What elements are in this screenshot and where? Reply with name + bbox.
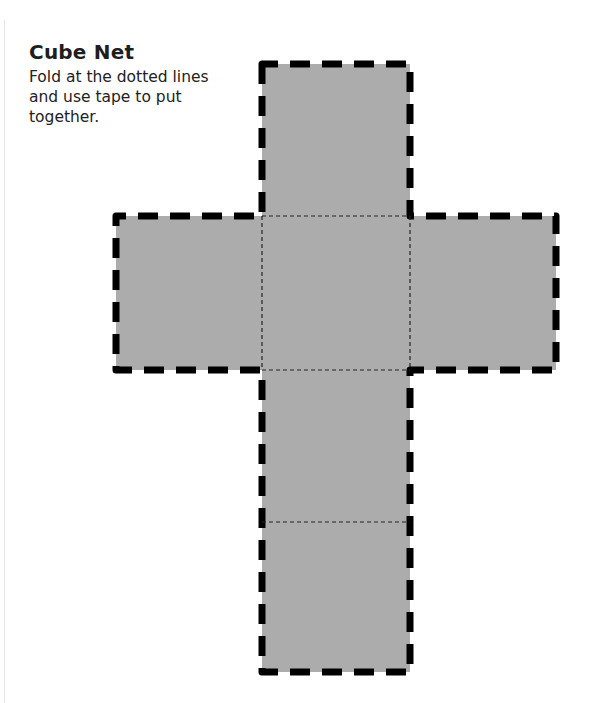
face-right — [410, 216, 556, 370]
face-bottom — [262, 522, 410, 672]
face-center — [262, 216, 410, 370]
face-left — [116, 216, 262, 370]
cube-net-diagram — [0, 0, 594, 703]
face-top — [262, 64, 410, 216]
face-lower — [262, 370, 410, 522]
